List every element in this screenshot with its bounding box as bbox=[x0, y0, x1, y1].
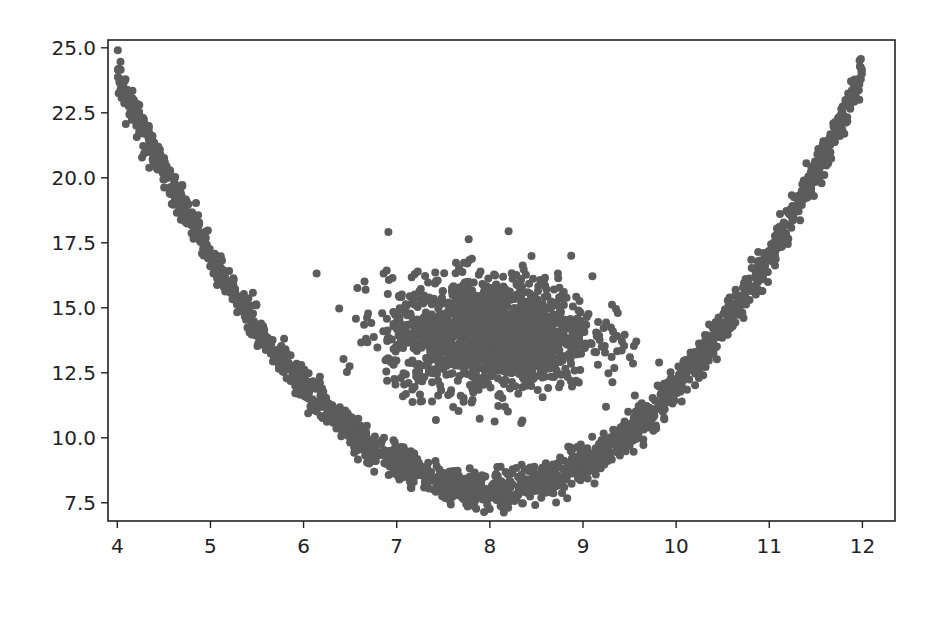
y-tick-label: 15.0 bbox=[51, 296, 96, 320]
x-tick-label: 11 bbox=[757, 534, 782, 558]
x-tick-label: 4 bbox=[111, 534, 124, 558]
x-tick-label: 6 bbox=[297, 534, 310, 558]
x-tick-label: 12 bbox=[850, 534, 875, 558]
y-tick-label: 10.0 bbox=[51, 426, 96, 450]
scatter-figure: 456789101112 7.510.012.515.017.520.022.5… bbox=[0, 0, 931, 628]
y-tick-label: 20.0 bbox=[51, 166, 96, 190]
y-tick-label: 22.5 bbox=[51, 101, 96, 125]
x-tick-label: 10 bbox=[663, 534, 688, 558]
y-tick-label: 17.5 bbox=[51, 231, 96, 255]
y-tick-label: 12.5 bbox=[51, 361, 96, 385]
scatter-plot: 456789101112 7.510.012.515.017.520.022.5… bbox=[0, 0, 931, 628]
x-tick-label: 9 bbox=[577, 534, 590, 558]
y-tick-label: 25.0 bbox=[51, 36, 96, 60]
x-tick-label: 5 bbox=[204, 534, 217, 558]
y-tick-label: 7.5 bbox=[64, 491, 96, 515]
x-tick-label: 7 bbox=[390, 534, 403, 558]
x-tick-label: 8 bbox=[483, 534, 496, 558]
